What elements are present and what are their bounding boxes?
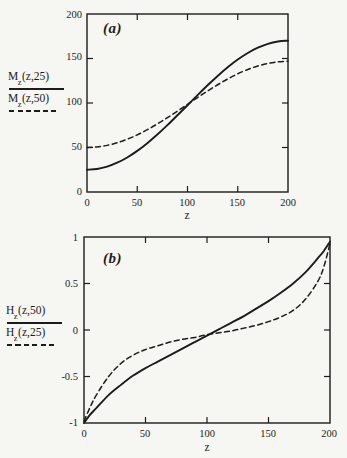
y-tick-label: 50 [46, 141, 82, 152]
y-tick-label: 150 [46, 51, 82, 62]
x-tick-label: 200 [312, 428, 346, 439]
panel-a-axes-box [87, 14, 288, 192]
solid-line-sample [7, 322, 62, 324]
x-tick-label: 200 [271, 197, 305, 208]
dashed-line-sample [7, 344, 55, 346]
panel-a-tag: (a) [103, 21, 122, 37]
x-tick-label: 50 [120, 197, 154, 208]
dashed-line-sample [9, 110, 57, 112]
panel-b-solid-curve [84, 242, 330, 423]
panel-b-legend: Hz(z,50) Hz(z,25) [6, 304, 62, 348]
legend-entry: Mz(z,50) [8, 92, 64, 107]
x-tick-label: 0 [67, 428, 101, 439]
legend-entry: Hz(z,25) [6, 326, 62, 341]
x-axis-label: z [200, 441, 214, 453]
plot-canvas [0, 0, 347, 458]
x-tick-label: 150 [220, 197, 254, 208]
x-tick-label: 100 [170, 197, 204, 208]
legend-entry: Hz(z,50) [6, 304, 62, 319]
panel-b-dashed-curve [84, 244, 330, 422]
x-tick-label: 50 [128, 428, 162, 439]
x-axis-label: z [180, 209, 194, 221]
x-tick-label: 100 [190, 428, 224, 439]
solid-line-sample [9, 88, 64, 90]
y-tick-label: -0.5 [42, 371, 78, 382]
panel-a-legend: Mz(z,25) Mz(z,50) [8, 70, 64, 114]
x-tick-label: 150 [251, 428, 285, 439]
panel-a-dashed-curve [87, 61, 288, 147]
y-tick-label: 1 [42, 232, 78, 243]
two-panel-line-figure: (a) 200 150 100 50 0 0 50 100 150 200 z … [0, 0, 347, 458]
y-tick-label: 200 [46, 9, 82, 20]
legend-entry: Mz(z,25) [8, 70, 64, 85]
y-tick-label: 0 [46, 186, 82, 197]
y-tick-label: 0.5 [42, 278, 78, 289]
panel-b-tag: (b) [103, 251, 122, 267]
y-tick-label: -1 [42, 417, 78, 428]
x-tick-label: 0 [70, 197, 104, 208]
